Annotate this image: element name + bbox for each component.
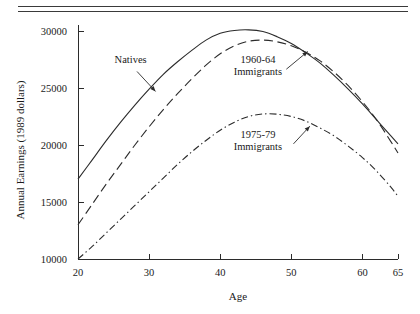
x-tick-label-60: 60 bbox=[357, 267, 368, 278]
earnings-by-age-chart: 203040506065 1000015000200002500030000 N… bbox=[0, 0, 420, 314]
x-axis: 203040506065 bbox=[73, 254, 404, 278]
figure-container: 203040506065 1000015000200002500030000 N… bbox=[0, 0, 420, 314]
x-tick-label-65: 65 bbox=[393, 267, 404, 278]
x-tick-label-50: 50 bbox=[286, 267, 297, 278]
y-axis-title: Annual Earnings (1989 dollars) bbox=[14, 80, 27, 219]
x-tick-label-40: 40 bbox=[215, 267, 226, 278]
top-double-rule bbox=[18, 6, 408, 12]
x-tick-label-20: 20 bbox=[73, 267, 84, 278]
y-axis: 1000015000200002500030000 bbox=[41, 25, 84, 265]
immigrants-1960-64-label: 1960-64Immigrants bbox=[234, 54, 282, 77]
y-tick-label-30000: 30000 bbox=[41, 26, 67, 37]
natives-label: Natives bbox=[115, 54, 147, 65]
y-tick-label-25000: 25000 bbox=[41, 83, 67, 94]
y-tick-label-10000: 10000 bbox=[41, 254, 67, 265]
x-axis-title: Age bbox=[229, 290, 247, 302]
x-tick-label-30: 30 bbox=[144, 267, 155, 278]
immigrants-1975-79-label: 1975-79Immigrants bbox=[234, 129, 282, 152]
y-tick-label-15000: 15000 bbox=[41, 197, 67, 208]
y-tick-label-20000: 20000 bbox=[41, 140, 67, 151]
series-line-1975-79-immigrants bbox=[78, 114, 398, 259]
annotation-layer: Natives1960-64Immigrants1975-79Immigrant… bbox=[115, 52, 310, 152]
